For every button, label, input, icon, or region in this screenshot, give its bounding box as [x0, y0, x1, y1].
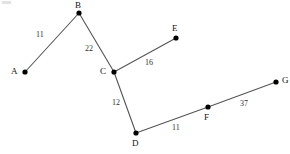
graph-node-g[interactable]	[273, 79, 278, 84]
graph-svg-layer	[0, 0, 290, 154]
edge-weight-c-d: 12	[112, 99, 120, 107]
graph-node-f[interactable]	[205, 104, 210, 109]
graph-node-b[interactable]	[76, 10, 81, 15]
graph-edge-b-c	[79, 13, 114, 72]
edges-group	[25, 13, 276, 133]
node-label-c: C	[100, 67, 106, 76]
node-label-d: D	[132, 139, 139, 148]
node-label-b: B	[75, 1, 81, 10]
graph-node-c[interactable]	[111, 69, 116, 74]
edge-weight-b-c: 22	[85, 45, 93, 53]
node-label-a: A	[11, 67, 18, 76]
node-label-e: E	[172, 24, 178, 33]
graph-edge-a-b	[25, 13, 79, 72]
edge-weight-a-b: 11	[36, 31, 44, 39]
graph-node-a[interactable]	[22, 69, 27, 74]
nodes-group	[22, 10, 278, 135]
graph-node-d[interactable]	[133, 130, 138, 135]
graph-diagram: ABCEDFG 112216121137	[0, 0, 290, 154]
graph-node-e[interactable]	[173, 35, 178, 40]
edge-weight-f-g: 37	[240, 100, 248, 108]
node-label-g: G	[282, 76, 289, 85]
node-label-f: F	[204, 113, 209, 122]
edge-weight-d-f: 11	[172, 124, 180, 132]
edge-weight-c-e: 16	[145, 59, 153, 67]
